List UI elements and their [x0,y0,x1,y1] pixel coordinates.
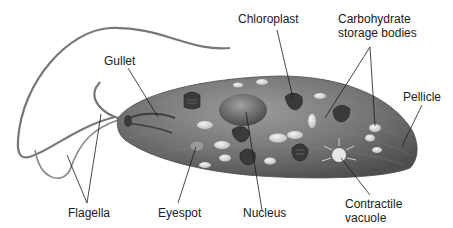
label-nucleus: Nucleus [243,206,286,220]
label-contractile-line2: vacuole [345,211,386,225]
label-flagella: Flagella [68,206,110,220]
label-pellicle: Pellicle [403,90,441,104]
label-gullet: Gullet [104,54,135,68]
label-eyespot: Eyespot [158,206,201,220]
chloroplast-shape [184,92,200,109]
short-flagellum [94,82,118,118]
label-carbohydrate-line1: Carbohydrate [338,12,411,26]
label-contractile-line1: Contractile [345,197,402,211]
eyespot-shape [190,141,204,151]
label-carbohydrate-line2: storage bodies [338,26,417,40]
nucleus-shape [219,94,267,126]
label-chloroplast: Chloroplast [238,12,299,26]
